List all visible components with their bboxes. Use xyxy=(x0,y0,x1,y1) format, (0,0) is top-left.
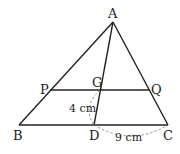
label-A: A xyxy=(107,6,118,21)
label-Q: Q xyxy=(151,82,162,97)
label-D: D xyxy=(89,128,99,143)
diagram-canvas: A B C D P Q G 4 cm 9 cm xyxy=(0,0,180,154)
measurement-GD: 4 cm xyxy=(69,102,97,115)
segment-AC xyxy=(113,22,168,125)
measurement-DC: 9 cm xyxy=(115,131,143,144)
segment-AD xyxy=(94,22,113,125)
label-B: B xyxy=(13,128,23,143)
triangle-diagram: A B C D P Q G 4 cm 9 cm xyxy=(0,0,180,154)
label-P: P xyxy=(40,82,49,97)
label-C: C xyxy=(163,128,173,143)
label-G: G xyxy=(92,75,102,90)
segment-AB xyxy=(19,22,113,125)
